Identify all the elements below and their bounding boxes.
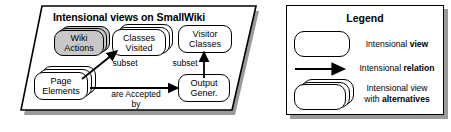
node-classes-visited-label: Classes Visited [112,29,166,56]
node-visitor-classes-label: Visitor Classes [178,25,232,53]
legend-label-normal: Intensional [359,63,403,73]
legend-item-intensional-view: Intensional view [286,31,444,57]
legend-item-intensional-relation: Intensional relation [286,61,444,77]
node-page-elements[interactable]: Page Elements [34,66,96,100]
legend-item-intensional-view-alternatives: Intensional view with alternatives [286,79,444,111]
arrow-icon [294,61,352,77]
edge-label-subset-right: subset [162,59,208,69]
edge-label-subset-left: subset [102,59,148,69]
node-wiki-actions[interactable]: Wiki Actions [54,26,110,56]
legend-label-normal: Intensional [366,39,410,49]
legend-panel: Legend Intensional view [286,5,444,115]
legend-symbol-arrow [294,61,354,77]
node-classes-visited[interactable]: Classes Visited [112,24,174,56]
node-page-elements-label: Page Elements [34,72,88,100]
legend-label-intensional-relation: Intensional relation [352,63,442,74]
diagram-canvas: Intensional views on SmallWiki [0,0,451,132]
node-wiki-actions-label: Wiki Actions [54,30,104,56]
legend-title: Legend [286,12,444,24]
legend-symbol-stacked-rounded-box [294,79,354,111]
legend-label-intensional-view-alternatives: Intensional view with alternatives [352,83,442,104]
legend-stack-front [294,84,346,110]
legend-label-intensional-view: Intensional view [352,39,442,50]
node-visitor-classes[interactable]: Visitor Classes [178,25,232,53]
legend-label-line2-bold: alternatives [382,94,430,104]
legend-symbol-rounded-box [294,31,354,57]
node-output-gener[interactable]: Output Gener. [178,74,230,102]
edge-label-are-accepted-by: are Accepted by [94,90,178,109]
legend-label-bold: view [410,39,429,49]
legend-label-line2-normal: with [364,94,382,104]
legend-label-bold: relation [403,63,434,73]
legend-label-line1: Intensional view [366,83,427,93]
intensional-views-panel: Intensional views on SmallWiki [20,4,260,116]
node-output-gener-label: Output Gener. [178,74,230,102]
